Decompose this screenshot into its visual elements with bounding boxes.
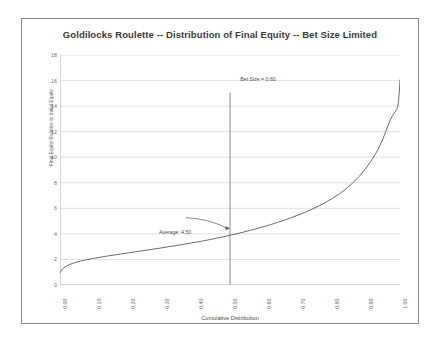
- x-tick-label: 0.50: [232, 299, 238, 310]
- average-annotation: Average: 4.50: [159, 229, 191, 235]
- x-axis-title: Cumulative Distribution: [60, 315, 400, 321]
- annotation-arrow: [186, 218, 230, 231]
- x-tick-label: 0.40: [198, 299, 204, 310]
- x-tick-label: 0.70: [300, 299, 306, 310]
- x-tick-label: 0.10: [96, 299, 102, 310]
- x-tick-label: 1.00: [402, 299, 408, 310]
- x-tick-label: 0.90: [368, 299, 374, 310]
- plot-svg: [60, 55, 400, 285]
- y-tick-label: 6: [54, 205, 57, 211]
- x-axis-tick-labels: 0.000.100.200.300.400.500.600.700.800.90…: [60, 287, 400, 313]
- x-tick-label: 0.30: [164, 299, 170, 310]
- bet-size-annotation: Bet Size = 0.60: [198, 76, 318, 82]
- chart-screenshot: Goldilocks Roulette -- Distribution of F…: [0, 0, 439, 340]
- y-tick-label: 4: [54, 231, 57, 237]
- y-axis-tick-labels: 024681012141618: [36, 55, 57, 285]
- x-tick-label: 0.20: [130, 299, 136, 310]
- x-tick-label: 0.60: [266, 299, 272, 310]
- x-tick-label: 0.80: [334, 299, 340, 310]
- chart-title: Goldilocks Roulette -- Distribution of F…: [22, 29, 418, 40]
- plot-area: [60, 55, 400, 285]
- y-tick-label: 0: [54, 282, 57, 288]
- y-axis-title: Final Equity Relative to Initial Equity: [49, 53, 54, 203]
- y-tick-label: 8: [54, 180, 57, 186]
- x-tick-label: 0.00: [62, 299, 68, 310]
- y-tick-label: 2: [54, 256, 57, 262]
- chart-frame: Goldilocks Roulette -- Distribution of F…: [21, 18, 419, 324]
